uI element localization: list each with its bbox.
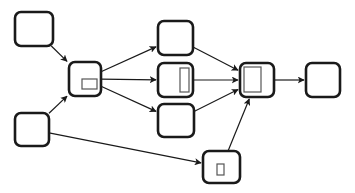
node-n7[interactable] — [240, 63, 274, 97]
edge-n4-to-n7 — [193, 47, 238, 70]
edge-n9-to-n7 — [228, 99, 249, 151]
flow-diagram — [0, 0, 355, 193]
node-n1[interactable] — [15, 12, 53, 46]
edge-n2-to-n4 — [101, 47, 156, 72]
node-box — [158, 104, 194, 137]
node-box — [158, 21, 193, 55]
node-n9[interactable] — [203, 151, 240, 183]
node-box — [15, 12, 53, 46]
edge-n1-to-n2 — [51, 46, 67, 61]
edge-n6-to-n7 — [194, 90, 238, 112]
node-n5[interactable] — [158, 63, 193, 97]
node-box — [306, 63, 340, 97]
node-n8[interactable] — [306, 63, 340, 97]
node-box — [203, 151, 240, 183]
edge-n2-to-n6 — [101, 86, 156, 111]
edge-n2-to-n5 — [101, 79, 156, 80]
nodes — [15, 12, 340, 183]
node-box — [15, 113, 49, 146]
node-n4[interactable] — [158, 21, 193, 55]
edge-n3-to-n2 — [49, 96, 67, 113]
node-n2[interactable] — [69, 62, 101, 96]
node-n6[interactable] — [158, 104, 194, 137]
node-n3[interactable] — [15, 113, 49, 146]
